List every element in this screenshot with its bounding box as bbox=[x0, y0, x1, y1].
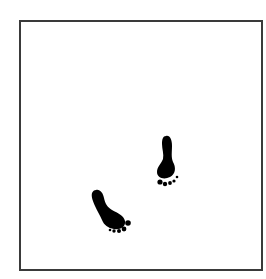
right-footprint-icon bbox=[157, 136, 178, 186]
footprints-graphic bbox=[0, 0, 266, 279]
left-footprint-icon bbox=[92, 190, 131, 233]
illustration-canvas bbox=[0, 0, 266, 279]
